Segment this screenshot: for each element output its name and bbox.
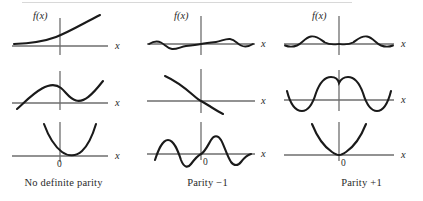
curve: [44, 124, 96, 155]
x-axis-label: x: [260, 148, 266, 159]
top-divider: [22, 2, 352, 3]
parity-figure: f(x) x f(x) x f(x) x: [0, 0, 423, 201]
plot-even-cosine: x: [282, 63, 423, 118]
x-axis-label: x: [400, 149, 406, 160]
y-axis-label: f(x): [174, 10, 189, 22]
y-axis-label: f(x): [33, 10, 48, 22]
plot-no-parity-shifted-parabola: 0 x: [0, 118, 141, 173]
origin-label: 0: [203, 157, 208, 167]
column-captions: No definite parity Parity −1 Parity +1: [0, 174, 423, 196]
x-axis-label: x: [114, 150, 120, 161]
caption-parity-plus-one: Parity +1: [282, 174, 423, 196]
origin-label: 0: [341, 158, 346, 168]
caption-no-definite-parity: No definite parity: [0, 174, 141, 196]
origin-label: 0: [57, 159, 62, 169]
curve: [14, 15, 100, 44]
x-axis-label: x: [260, 95, 266, 106]
x-axis-label: x: [114, 40, 120, 51]
plot-odd-sine: 0 x: [141, 118, 282, 173]
plot-no-parity-cubic: x: [0, 63, 141, 118]
plot-no-parity-exponential: f(x) x: [0, 8, 141, 63]
x-axis-label: x: [400, 94, 406, 105]
x-axis-label: x: [400, 38, 406, 49]
plot-grid: f(x) x f(x) x f(x) x: [0, 8, 423, 173]
plot-even-parabola: 0 x: [282, 118, 423, 173]
curve: [165, 76, 223, 114]
plot-odd-wiggly: f(x) x: [141, 8, 282, 63]
caption-parity-minus-one: Parity −1: [141, 174, 282, 196]
plot-odd-decreasing: x: [141, 63, 282, 118]
plot-even-wiggly: f(x) x: [282, 8, 423, 63]
y-axis-label: f(x): [312, 10, 327, 22]
x-axis-label: x: [114, 97, 120, 108]
x-axis-label: x: [260, 38, 266, 49]
